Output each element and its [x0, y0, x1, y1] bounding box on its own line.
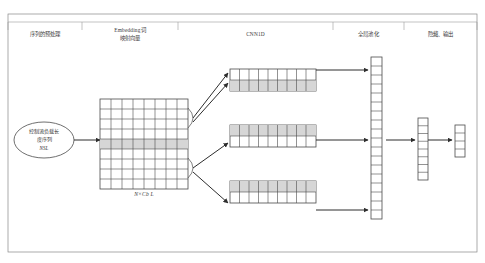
cnn-block-middle [230, 125, 316, 147]
stage-separators [8, 22, 477, 30]
stage-label-input-sequence: 序列的预处理 [8, 31, 82, 39]
output-vector [455, 125, 465, 157]
embedding-matrix-caption: N×Cb L [100, 191, 188, 197]
embedding-matrix [100, 99, 188, 189]
stage-label-global-pooling: 全局池化 [333, 31, 404, 39]
matrix-branch-curves [188, 108, 193, 178]
cnn-block-bottom [230, 181, 316, 203]
input-node-label: 控制流负载长 度序列 [14, 128, 74, 143]
arrows-embedding-to-cnn [193, 73, 228, 203]
stage-label-hidden-output: 隐藏、输出 [404, 31, 477, 39]
stage-label-embedding: Embedding词 映射向量 [82, 27, 178, 43]
stage-label-cnn1d: CNN1D [178, 31, 333, 39]
pooling-vector [371, 57, 382, 219]
input-node-sublabel: NSL [14, 145, 74, 151]
cnn-block-top [230, 69, 316, 91]
architecture-diagram: 序列的预处理 Embedding词 映射向量 CNN1D 全局池化 隐藏、输出 … [0, 0, 485, 263]
hidden-vector [418, 118, 428, 180]
arrows-cnn-to-pooling [316, 70, 368, 210]
